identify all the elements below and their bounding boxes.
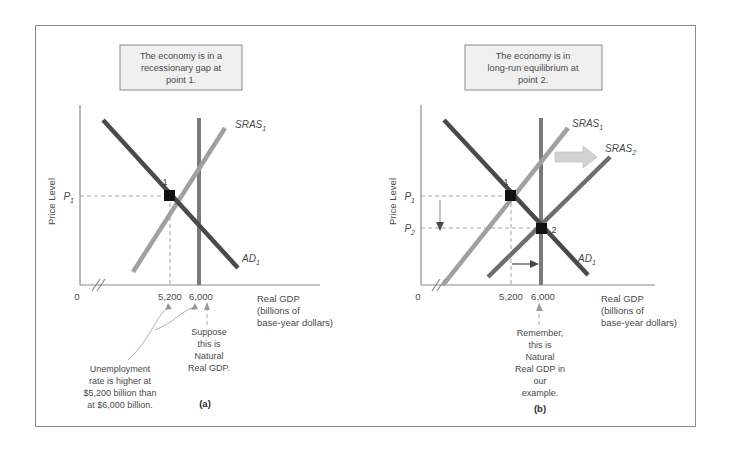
point-label-b-2: 2 <box>551 225 556 235</box>
svg-text:Natural: Natural <box>525 352 554 362</box>
price-label-b-p1: P1 <box>404 191 415 204</box>
figure-root: The economy is in a recessionary gap at … <box>0 0 733 452</box>
callout-box-b: The economy is in long-run equilibrium a… <box>465 45 602 90</box>
svg-text:this is: this is <box>528 340 552 350</box>
point-label-b-1: 1 <box>503 177 508 187</box>
svg-text:Remember,: Remember, <box>517 328 564 338</box>
svg-text:(billions of: (billions of <box>601 305 644 316</box>
panel-caption-b: (b) <box>534 403 546 414</box>
svg-text:Real GDP: Real GDP <box>601 293 644 304</box>
price-label-b-p2: P2 <box>404 223 415 236</box>
price-fall-arrow-b <box>436 200 444 231</box>
remember-note-b: Remember, this is Natural Real GDP in ou… <box>515 328 565 398</box>
y-axis-label-b: Price Level <box>387 178 398 225</box>
x-axis-label-b: Real GDP (billions of base-year dollars) <box>601 293 677 328</box>
panel-b: The economy is in long-run equilibrium a… <box>0 0 733 452</box>
equilibrium-point-b-2 <box>536 223 547 234</box>
x-tick-b-6000: 6,000 <box>531 291 555 302</box>
svg-text:base-year dollars): base-year dollars) <box>601 317 677 328</box>
sras1-label-b: SRAS1 <box>572 118 603 131</box>
x-tick-b-5200: 5,200 <box>499 291 523 302</box>
arrowhead-b-1 <box>536 303 543 311</box>
callout-line-b-1: The economy is in <box>496 51 571 61</box>
output-expansion-arrow-b <box>512 260 539 268</box>
sras-shift-arrow-b <box>555 146 597 168</box>
svg-text:example.: example. <box>522 388 559 398</box>
sras2-label-b: SRAS2 <box>605 143 636 156</box>
callout-line-b-2: long-run equilibrium at <box>488 63 579 73</box>
svg-text:our: our <box>533 376 546 386</box>
origin-label-b: 0 <box>415 291 420 302</box>
equilibrium-point-b-1 <box>505 190 516 201</box>
svg-text:Real GDP in: Real GDP in <box>515 364 565 374</box>
callout-line-b-3: point 2. <box>518 75 548 85</box>
leader-lines-b <box>536 303 543 325</box>
